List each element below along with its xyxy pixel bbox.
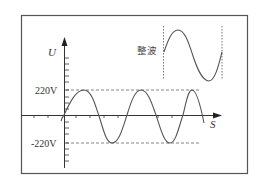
inset-sine-wave xyxy=(164,30,222,81)
x-axis xyxy=(21,113,222,119)
inset-wave xyxy=(164,26,223,81)
main-sine-wave xyxy=(61,90,204,143)
y-axis-arrow-icon xyxy=(62,37,68,46)
lower-level-label: -220V xyxy=(31,138,57,149)
sine-wave-diagram: U S 220V -220V 整波 xyxy=(0,0,260,189)
inset-label: 整波 xyxy=(137,45,157,56)
x-axis-label: S xyxy=(210,118,216,130)
y-axis-label: U xyxy=(48,46,57,58)
y-axis xyxy=(62,37,70,168)
upper-level-label: 220V xyxy=(35,85,58,96)
